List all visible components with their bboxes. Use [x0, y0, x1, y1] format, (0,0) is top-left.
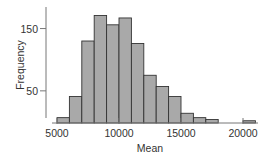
y-axis-label: Frequency [14, 39, 26, 89]
x-tick-label: 5000 [45, 127, 69, 139]
x-tick-label: 10000 [104, 127, 133, 139]
histogram-bar [193, 118, 205, 123]
histogram-bar [156, 86, 168, 123]
histogram-chart: 50150 5000100001500020000 Frequency Mean [0, 0, 278, 159]
histogram-bar [69, 96, 81, 123]
x-tick-label: 15000 [166, 127, 195, 139]
histogram-bar [206, 120, 218, 123]
histogram-bar [131, 44, 143, 124]
histogram-bar [181, 113, 193, 123]
histogram-bar [94, 15, 106, 123]
histogram-bar [107, 25, 119, 123]
histogram-bar [57, 118, 69, 123]
histogram-bar [119, 18, 131, 123]
x-tick-label: 20000 [228, 127, 257, 139]
y-tick-label: 50 [26, 85, 38, 97]
x-axis-label: Mean [137, 142, 163, 154]
histogram-bars [57, 15, 255, 123]
histogram-bar [169, 96, 181, 123]
y-tick-label: 150 [20, 23, 38, 35]
histogram-bar [82, 41, 94, 123]
histogram-bar [144, 75, 156, 123]
